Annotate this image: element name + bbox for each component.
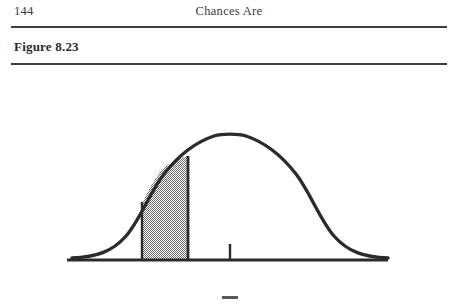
rule-below-caption — [11, 63, 447, 65]
page: 144 Chances Are Figure 8.23 — [0, 0, 458, 304]
running-head-title: Chances Are — [0, 4, 458, 19]
normal-curve-svg — [0, 86, 458, 304]
figure-plot — [0, 86, 458, 304]
normal-density-curve — [72, 134, 388, 258]
figure-caption: Figure 8.23 — [14, 39, 79, 55]
rule-above-caption — [11, 26, 447, 28]
running-head: 144 Chances Are — [0, 4, 458, 22]
cropped-bottom-glyph — [222, 296, 238, 299]
